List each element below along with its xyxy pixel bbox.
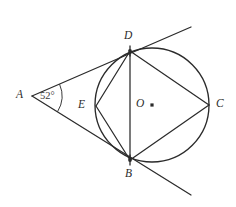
geometry-figure: A D B C E O 52° (0, 0, 236, 207)
chord-e-b (96, 106, 130, 160)
point-label-d: D (124, 30, 132, 42)
vertex-dot-d (128, 49, 132, 53)
vertex-dot-b (128, 158, 132, 162)
geometry-canvas (0, 0, 236, 207)
point-label-e: E (78, 99, 85, 111)
circle-center-label: O (136, 98, 144, 110)
circle-center-dot (150, 103, 153, 106)
tangent-ray-lower (32, 96, 191, 195)
tangent-ray-upper (32, 27, 191, 96)
angle-arc-at-a (57, 84, 62, 112)
chord-c-b (130, 105, 209, 160)
point-label-b: B (125, 168, 132, 180)
point-label-c: C (216, 98, 224, 110)
point-label-a: A (16, 89, 23, 101)
angle-measure-label: 52° (40, 91, 55, 102)
